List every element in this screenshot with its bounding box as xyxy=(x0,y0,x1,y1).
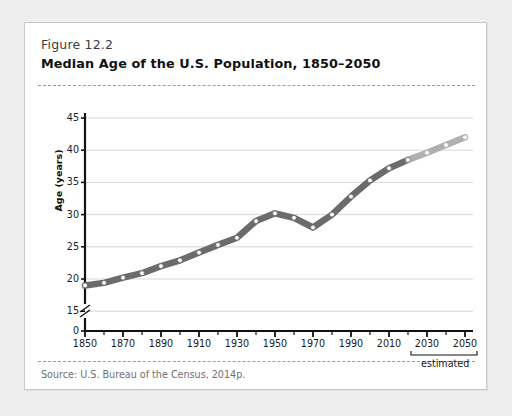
x-axis-tick-label: 1890 xyxy=(141,338,181,349)
x-axis-tick-label: 2030 xyxy=(407,338,447,349)
estimated-annotation-label: estimated xyxy=(421,358,469,369)
chart-plot-area: Age (years) 0152025303540451850187018901… xyxy=(25,23,488,391)
x-axis-tick-label: 2010 xyxy=(369,338,409,349)
line-chart xyxy=(25,23,488,391)
y-axis-tick-label: 20 xyxy=(57,273,79,284)
x-axis-tick-label: 1930 xyxy=(217,338,257,349)
x-axis-tick-label: 2050 xyxy=(445,338,485,349)
x-axis-tick-label: 1850 xyxy=(65,338,105,349)
x-axis-tick-label: 1970 xyxy=(293,338,333,349)
x-axis-tick-label: 1990 xyxy=(331,338,371,349)
y-axis-tick-label: 0 xyxy=(57,325,79,336)
y-axis-tick-label: 30 xyxy=(57,209,79,220)
y-axis-tick-label: 35 xyxy=(57,176,79,187)
x-axis-tick-label: 1870 xyxy=(103,338,143,349)
figure-card: Figure 12.2 Median Age of the U.S. Popul… xyxy=(24,22,487,390)
y-axis-tick-label: 25 xyxy=(57,241,79,252)
y-axis-tick-label: 15 xyxy=(57,305,79,316)
y-axis-tick-label: 40 xyxy=(57,144,79,155)
y-axis-tick-label: 45 xyxy=(57,112,79,123)
x-axis-tick-label: 1910 xyxy=(179,338,219,349)
x-axis-tick-label: 1950 xyxy=(255,338,295,349)
